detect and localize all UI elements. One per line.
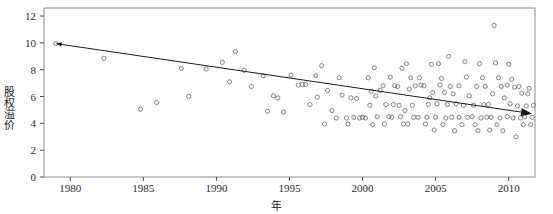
data-point — [360, 115, 364, 119]
data-point — [464, 75, 468, 79]
data-point — [438, 83, 442, 87]
data-point — [463, 60, 467, 64]
data-point — [407, 87, 411, 91]
data-point — [520, 91, 524, 95]
data-point — [330, 109, 334, 113]
data-point — [445, 102, 449, 106]
x-tick-label: 1990 — [205, 182, 228, 194]
data-point — [413, 84, 417, 88]
data-point — [510, 77, 514, 81]
data-point — [453, 129, 457, 133]
data-point — [480, 76, 484, 80]
data-point — [271, 94, 275, 98]
x-tick-labels: 1980198519901995200020052010 — [59, 182, 520, 194]
data-point — [265, 109, 269, 113]
data-point — [514, 135, 518, 139]
x-tick-label: 1980 — [59, 182, 82, 194]
data-point — [179, 66, 183, 70]
data-point — [340, 93, 344, 97]
data-point — [442, 90, 446, 94]
data-point — [388, 75, 392, 79]
y-tick-label: 2 — [31, 144, 37, 156]
data-points-group — [54, 23, 536, 139]
y-tick-label: 8 — [31, 64, 37, 76]
data-point — [422, 84, 426, 88]
y-tick-label: 6 — [31, 91, 37, 103]
data-point — [508, 102, 512, 106]
data-point — [429, 62, 433, 66]
data-point — [416, 115, 420, 119]
data-point — [334, 116, 338, 120]
data-point — [529, 123, 533, 127]
data-point — [401, 122, 405, 126]
y-tick-label: 10 — [25, 37, 37, 49]
data-point — [476, 129, 480, 133]
data-point — [457, 115, 461, 119]
data-point — [390, 115, 394, 119]
data-point — [426, 102, 430, 106]
data-point — [470, 115, 474, 119]
x-tick-label: 1985 — [132, 182, 155, 194]
x-tick-label: 2005 — [425, 182, 448, 194]
data-point — [382, 122, 386, 126]
data-point — [384, 102, 388, 106]
data-point — [473, 123, 477, 127]
data-point — [289, 73, 293, 77]
x-tick-label: 2000 — [352, 182, 375, 194]
data-point — [320, 64, 324, 68]
data-point — [138, 107, 142, 111]
data-point — [375, 115, 379, 119]
data-point — [491, 92, 495, 96]
data-point — [387, 115, 391, 119]
data-point — [314, 74, 318, 78]
data-point — [400, 66, 404, 70]
data-point — [447, 54, 451, 58]
data-point — [204, 67, 208, 71]
data-point — [439, 76, 443, 80]
data-point — [499, 84, 503, 88]
data-point — [282, 110, 286, 114]
plot-border — [44, 8, 535, 177]
data-point — [485, 115, 489, 119]
y-tick-label: 12 — [25, 10, 36, 22]
data-point — [467, 94, 471, 98]
data-point — [187, 94, 191, 98]
data-point — [220, 60, 224, 64]
data-point — [511, 116, 515, 120]
data-point — [315, 95, 319, 99]
data-point — [450, 115, 454, 119]
data-point — [515, 104, 519, 108]
data-point — [371, 123, 375, 127]
data-point — [507, 62, 511, 66]
data-point — [322, 122, 326, 126]
data-point — [393, 84, 397, 88]
y-tick-labels: 024681012 — [25, 10, 37, 183]
data-point — [501, 129, 505, 133]
data-point — [372, 66, 376, 70]
y-tick-label: 4 — [31, 117, 37, 129]
plot-area-svg: 1980198519901995200020052010 024681012 — [0, 0, 553, 214]
x-tick-label: 1995 — [279, 182, 302, 194]
data-point — [512, 85, 516, 89]
y-tick-label: 0 — [31, 171, 37, 183]
data-point — [419, 83, 423, 87]
plot-frame — [44, 8, 535, 177]
data-point — [492, 23, 496, 27]
data-point — [409, 76, 413, 80]
data-point — [526, 92, 530, 96]
data-point — [434, 115, 438, 119]
data-point — [406, 122, 410, 126]
data-point — [435, 102, 439, 106]
data-point — [505, 83, 509, 87]
data-point — [432, 128, 436, 132]
data-point — [325, 88, 329, 92]
data-point — [466, 115, 470, 119]
data-point — [349, 96, 353, 100]
data-point — [436, 62, 440, 66]
data-point — [249, 84, 253, 88]
data-point — [368, 103, 372, 107]
data-point — [460, 123, 464, 127]
data-point — [358, 116, 362, 120]
data-point — [493, 61, 497, 65]
data-point — [233, 49, 237, 53]
